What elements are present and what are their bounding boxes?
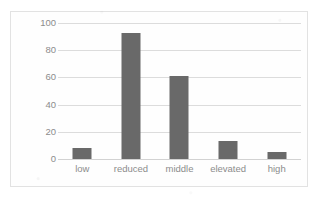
y-axis-tick-label: 60 [16,73,56,83]
bar-slot [252,23,301,159]
bar-reduced[interactable] [121,33,140,159]
x-axis-label-middle: middle [166,164,194,174]
bar-slot [155,23,204,159]
x-axis-label-low: low [75,164,89,174]
bar-high[interactable] [267,152,286,159]
bar-slot [107,23,156,159]
bar-slot [204,23,253,159]
x-axis-label-elevated: elevated [210,164,246,174]
x-axis-category-labels: lowreducedmiddleelevatedhigh [58,164,301,184]
bar-middle[interactable] [170,76,189,159]
bar-elevated[interactable] [219,141,238,159]
chart-frame: 020406080100 lowreducedmiddleelevatedhig… [10,11,308,187]
y-axis-tick-label: 20 [16,127,56,137]
x-axis-label-high: high [268,164,286,174]
x-axis-label-reduced: reduced [114,164,148,174]
y-axis-tick-label: 100 [16,18,56,28]
y-axis-tick-label: 40 [16,100,56,110]
bars-group [58,23,301,159]
plot-area: 020406080100 lowreducedmiddleelevatedhig… [11,12,307,186]
y-axis-tick-label: 0 [16,154,56,164]
bar-slot [58,23,107,159]
bar-low[interactable] [73,148,92,159]
gridline-0 [58,159,301,160]
y-axis-tick-label: 80 [16,45,56,55]
